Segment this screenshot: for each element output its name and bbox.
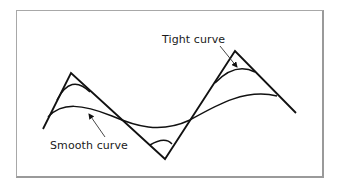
- tight-curve-arrow-icon: [220, 46, 237, 67]
- tight-curve-valley: [150, 140, 172, 145]
- smooth-curve-label: Smooth curve: [50, 140, 128, 151]
- smooth-curve: [48, 94, 277, 128]
- tight-curve-peak: [215, 69, 255, 83]
- smooth-curve-arrow-icon: [89, 114, 105, 137]
- diagram-canvas: Tight curve Smooth curve: [0, 0, 338, 184]
- curve-diagram: [0, 0, 338, 184]
- tight-curve-label: Tight curve: [162, 34, 225, 45]
